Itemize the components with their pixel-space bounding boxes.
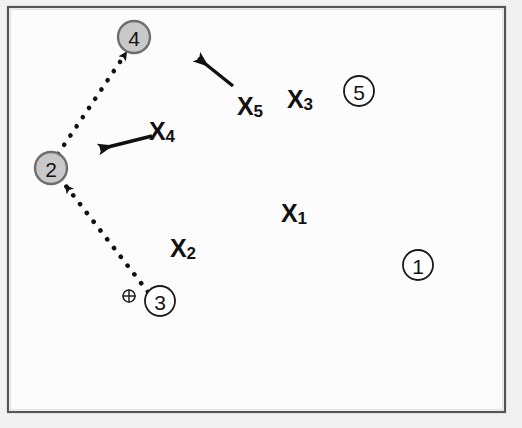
diagram-canvas: 4 2 3 5 1 X5 X4 X3 X1 X2 [0, 0, 522, 428]
node-5[interactable]: 5 [344, 76, 374, 106]
node-2[interactable]: 2 [35, 152, 67, 184]
node-3[interactable]: 3 [145, 286, 175, 316]
diagram-svg: 4 2 3 5 1 X5 X4 X3 X1 X2 [0, 0, 522, 428]
node-1[interactable]: 1 [403, 250, 433, 280]
node-2-label: 2 [45, 158, 57, 181]
node-4-label: 4 [128, 27, 140, 50]
node-3-label: 3 [154, 291, 166, 314]
diagram-frame [8, 7, 505, 412]
node-5-label: 5 [353, 81, 365, 104]
node-4[interactable]: 4 [118, 21, 150, 53]
crosshair-icon [123, 290, 136, 303]
node-1-label: 1 [412, 255, 424, 278]
